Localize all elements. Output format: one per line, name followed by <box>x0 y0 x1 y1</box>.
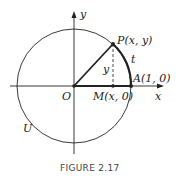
point-o <box>72 84 76 88</box>
arc-t <box>113 44 131 86</box>
origin-label: O <box>62 90 71 103</box>
point-m-label: M(x, 0) <box>92 90 133 103</box>
x-axis-label: x <box>155 90 162 103</box>
point-a-label: A(1, 0) <box>132 72 171 85</box>
point-p-label: P(x, y) <box>116 34 152 47</box>
y-axis-arrow-icon <box>72 11 77 18</box>
segment-y-label: y <box>102 63 110 76</box>
point-m <box>111 84 115 88</box>
point-p <box>111 42 115 46</box>
y-axis-label: y <box>79 8 87 21</box>
unit-circle-diagram: y x O P(x, y) A(1, 0) M(x, 0) t y U FIGU… <box>0 0 176 176</box>
arc-t-label: t <box>131 53 136 66</box>
figure-caption: FIGURE 2.17 <box>60 163 120 173</box>
circle-u-label: U <box>23 122 33 135</box>
